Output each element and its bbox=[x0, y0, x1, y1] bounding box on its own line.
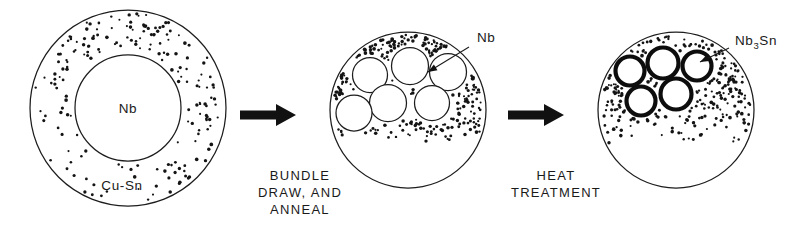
stipple-dot bbox=[410, 36, 413, 39]
stipple-dot bbox=[607, 101, 610, 104]
stipple-dot bbox=[401, 129, 404, 132]
stipple-dot bbox=[686, 119, 689, 122]
stipple-dot bbox=[471, 105, 474, 108]
stipple-dot bbox=[143, 30, 146, 33]
stipple-dot bbox=[59, 76, 61, 78]
stipple-dot bbox=[211, 83, 214, 86]
nb3sn-filament-1 bbox=[616, 57, 645, 86]
stipple-dot bbox=[693, 124, 696, 127]
stipple-dot bbox=[456, 102, 459, 105]
stipple-dot bbox=[716, 106, 719, 109]
stipple-dot bbox=[61, 67, 64, 70]
stipple-dot bbox=[466, 83, 469, 86]
stipple-dot bbox=[463, 133, 467, 137]
stipple-dot bbox=[400, 40, 404, 44]
stipple-dot bbox=[180, 76, 182, 78]
stipple-dot bbox=[658, 109, 661, 112]
stipple-dot bbox=[210, 97, 212, 99]
stipple-dot bbox=[731, 75, 734, 78]
stipple-dot bbox=[698, 89, 700, 91]
stipple-dot bbox=[135, 40, 138, 43]
stipple-dot bbox=[168, 190, 172, 194]
stipple-dot bbox=[424, 38, 427, 41]
stipple-dot bbox=[430, 51, 433, 54]
stipple-dot bbox=[646, 118, 649, 121]
stipple-dot bbox=[398, 42, 400, 44]
stipple-dot bbox=[688, 137, 690, 139]
stipple-dot bbox=[614, 91, 617, 94]
stipple-dot bbox=[444, 135, 447, 138]
stipple-dot bbox=[432, 49, 435, 52]
stipple-dot bbox=[177, 141, 179, 143]
stipple-dot bbox=[371, 52, 374, 55]
stipple-dot bbox=[612, 127, 616, 131]
stipple-dot bbox=[167, 163, 170, 166]
stipple-dot bbox=[707, 47, 710, 50]
stipple-dot bbox=[742, 118, 745, 121]
stipple-dot bbox=[128, 13, 131, 16]
stipple-dot bbox=[132, 29, 134, 31]
stipple-dot bbox=[667, 38, 669, 40]
nb-filament-5 bbox=[415, 86, 450, 121]
stipple-dot bbox=[602, 114, 605, 117]
stipple-dot bbox=[118, 19, 120, 21]
stipple-dot bbox=[159, 42, 162, 45]
stipple-dot bbox=[424, 139, 427, 142]
stipple-dot bbox=[129, 168, 132, 171]
stipple-dot bbox=[743, 97, 746, 100]
stipple-dot bbox=[377, 49, 380, 52]
stipple-dot bbox=[64, 98, 68, 102]
stipple-dot bbox=[149, 48, 151, 50]
stipple-dot bbox=[381, 53, 384, 56]
stipple-dot bbox=[62, 79, 65, 82]
stipple-dot bbox=[437, 48, 440, 51]
stipple-dot bbox=[736, 70, 738, 72]
stipple-dot bbox=[480, 102, 482, 104]
stipple-dot bbox=[699, 99, 701, 101]
stipple-dot bbox=[152, 194, 154, 196]
stipple-dot bbox=[206, 57, 208, 59]
stipple-dot bbox=[740, 112, 744, 116]
stipple-dot bbox=[179, 66, 182, 69]
stipple-dot bbox=[35, 86, 37, 88]
stipple-dot bbox=[435, 125, 438, 128]
stipple-dot bbox=[423, 42, 426, 45]
stipple-dot bbox=[386, 51, 389, 54]
stipple-dot bbox=[719, 109, 721, 111]
stipple-dot bbox=[736, 116, 738, 118]
stipple-dot bbox=[704, 88, 707, 91]
stipple-dot bbox=[426, 130, 429, 133]
stipple-dot bbox=[603, 88, 607, 92]
stipple-dot bbox=[671, 127, 674, 130]
stipple-dot bbox=[341, 80, 344, 83]
nb3sn-filament-3 bbox=[683, 52, 712, 81]
stipple-dot bbox=[387, 136, 390, 139]
stipple-dot bbox=[204, 159, 207, 162]
stipple-dot bbox=[174, 161, 177, 164]
stipple-dot bbox=[677, 131, 680, 134]
stipple-dot bbox=[155, 184, 158, 187]
stipple-dot bbox=[605, 109, 607, 111]
stipple-dot bbox=[391, 79, 393, 81]
stipple-dot bbox=[178, 181, 182, 185]
stipple-dot bbox=[610, 84, 612, 86]
stipple-dot bbox=[395, 136, 397, 138]
stipple-dot bbox=[713, 95, 716, 98]
stipple-dot bbox=[188, 175, 191, 178]
stipple-dot bbox=[650, 80, 652, 82]
stipple-dot bbox=[696, 100, 699, 103]
stipple-dot bbox=[149, 43, 151, 45]
stipple-dot bbox=[91, 36, 95, 40]
stipple-dot bbox=[377, 129, 379, 131]
stipple-dot bbox=[473, 117, 475, 119]
stipple-dot bbox=[374, 43, 378, 47]
stipple-dot bbox=[205, 105, 208, 108]
stipple-dot bbox=[410, 93, 412, 95]
nb-filament-2 bbox=[392, 48, 429, 85]
stipple-dot bbox=[699, 133, 703, 137]
stipple-dot bbox=[199, 113, 201, 115]
stipple-dot bbox=[156, 168, 159, 171]
stipple-dot bbox=[630, 135, 632, 137]
stipple-dot bbox=[427, 41, 430, 44]
stipple-dot bbox=[208, 118, 211, 121]
